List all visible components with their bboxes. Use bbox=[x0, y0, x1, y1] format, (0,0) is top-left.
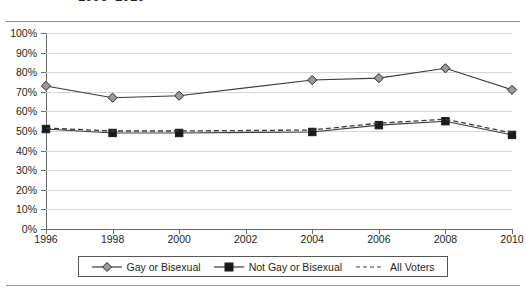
chart-legend: Gay or Bisexual Not Gay or Bisexual All … bbox=[78, 256, 448, 277]
data-point-marker bbox=[507, 85, 516, 94]
diamond-marker-icon bbox=[92, 261, 122, 273]
divider-top bbox=[6, 21, 520, 22]
legend-label: All Voters bbox=[390, 261, 434, 273]
square-marker-icon bbox=[214, 261, 244, 273]
chart-title: 1996–2010 bbox=[78, 0, 145, 4]
y-axis-tick-label: 10% bbox=[16, 203, 37, 215]
x-axis-tick-label: 1998 bbox=[101, 233, 124, 245]
data-point-marker bbox=[175, 91, 184, 100]
x-axis-tick-label: 2006 bbox=[367, 233, 390, 245]
y-axis-tick-label: 100% bbox=[10, 27, 37, 39]
data-point-marker bbox=[375, 121, 382, 128]
legend-item-not-gay-or-bisexual: Not Gay or Bisexual bbox=[214, 261, 342, 273]
data-point-marker bbox=[442, 118, 449, 125]
data-point-marker bbox=[108, 93, 117, 102]
chart-figure: 1996–2010 0%10%20%30%40%50%60%70%80%90%1… bbox=[0, 0, 526, 292]
plot-area: 0%10%20%30%40%50%60%70%80%90%100% 199619… bbox=[46, 33, 512, 229]
data-point-marker bbox=[41, 81, 50, 90]
data-point-marker bbox=[374, 73, 383, 82]
legend-item-all-voters: All Voters bbox=[355, 261, 434, 273]
y-axis-tick-label: 50% bbox=[16, 125, 37, 137]
y-axis-tick-label: 70% bbox=[16, 86, 37, 98]
x-axis-tick-label: 1996 bbox=[34, 233, 57, 245]
dashed-line-icon bbox=[355, 261, 385, 273]
y-axis-tick-label: 30% bbox=[16, 164, 37, 176]
y-axis-tick-label: 90% bbox=[16, 47, 37, 59]
legend-label: Gay or Bisexual bbox=[127, 261, 201, 273]
x-axis-tick-label: 2008 bbox=[434, 233, 457, 245]
x-axis-tick-label: 2002 bbox=[234, 233, 257, 245]
legend-label: Not Gay or Bisexual bbox=[249, 261, 342, 273]
x-axis-line bbox=[46, 229, 512, 230]
x-axis-tick-label: 2004 bbox=[301, 233, 324, 245]
data-point-marker bbox=[42, 125, 49, 132]
chart-title-area: 1996–2010 bbox=[0, 0, 526, 10]
y-axis-tick-label: 60% bbox=[16, 105, 37, 117]
series-layer bbox=[46, 33, 512, 229]
y-axis-tick-label: 40% bbox=[16, 145, 37, 157]
x-axis-tick-label: 2000 bbox=[167, 233, 190, 245]
y-axis-tick-label: 20% bbox=[16, 184, 37, 196]
legend-item-gay-or-bisexual: Gay or Bisexual bbox=[92, 261, 201, 273]
series-line bbox=[46, 68, 512, 97]
y-axis-tick-label: 80% bbox=[16, 66, 37, 78]
x-axis-tick-label: 2010 bbox=[500, 233, 523, 245]
data-point-marker bbox=[441, 64, 450, 73]
data-point-marker bbox=[308, 75, 317, 84]
divider-bottom bbox=[6, 285, 520, 286]
